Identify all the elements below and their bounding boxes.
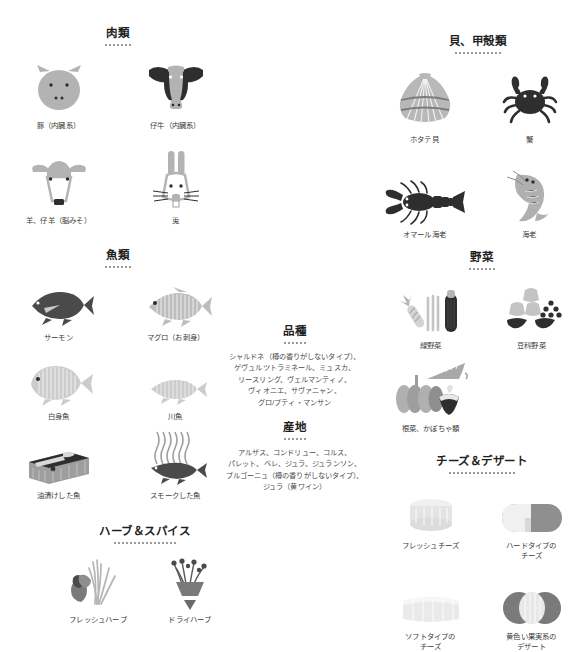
item-label: サーモン (44, 333, 73, 343)
item-legume-vegetables: 豆科野菜 (481, 284, 582, 351)
legume-vegetables-icon (501, 284, 563, 336)
item-dry-herbs: ドライハーブ (144, 558, 236, 625)
item-label: 羊、仔羊（脳みそ） (26, 216, 91, 226)
item-label: 根菜、かぼちゃ類 (402, 424, 460, 434)
item-sheep: 羊、仔羊（脳みそ） (0, 149, 117, 226)
item-root-pumpkin-vegetables: 根菜、かぼちゃ類 (380, 367, 481, 434)
green-vegetables-icon (400, 284, 462, 336)
smoked-fish-icon (143, 438, 209, 486)
section-cheese-dessert: チーズ＆デザート フレッシュチーズ (380, 452, 583, 652)
item-calf: 仔牛（内臓系） (117, 58, 234, 131)
white-fish-icon (23, 359, 95, 407)
pig-head-icon (31, 58, 87, 116)
block-title-varieties: 品種 (207, 322, 382, 338)
item-salmon: サーモン (0, 280, 117, 343)
varieties-list: シャルドネ（樽の香りがしないタイプ）、ゲヴュルツトラミネール、ミュスカ、リースリ… (207, 351, 382, 408)
title-underline-dots-origins (207, 436, 382, 442)
fresh-cheese-icon (402, 488, 460, 536)
item-label: 豆科野菜 (517, 341, 546, 351)
crab-icon (499, 68, 561, 130)
item-label: 海老 (522, 230, 536, 240)
item-crab: 蟹 (477, 68, 582, 145)
section-shellfish: 貝、甲殻類 (372, 32, 583, 240)
item-rabbit: 兎 (117, 149, 234, 226)
item-label: 豚（内臓系） (37, 121, 80, 131)
oil-cured-fish-icon (23, 438, 95, 486)
item-fresh-herbs: フレッシュハーブ (52, 558, 144, 625)
tuna-sashimi-icon (139, 280, 213, 328)
river-fish-icon (143, 359, 209, 407)
item-lobster: オマール海老 (372, 163, 477, 240)
item-label: ドライハーブ (168, 615, 211, 625)
hard-cheese-icon (499, 488, 565, 536)
title-underline-dots-meat (0, 42, 235, 48)
item-shrimp: 海老 (477, 163, 582, 240)
fresh-herbs-icon (67, 558, 129, 610)
section-meat: 肉類 豚（内臓系） (0, 24, 235, 226)
item-yellow-fruit-dessert: 黄色い果実系の デザート (481, 579, 582, 652)
item-scallop: ホタテ貝 (372, 68, 477, 145)
section-herbs-spices: ハーブ＆スパイス フレッシュハーブ (52, 522, 237, 625)
item-label: マグロ（お刺身） (147, 333, 205, 343)
item-label: オマール海老 (403, 230, 446, 240)
lobster-icon (383, 163, 467, 225)
item-label: 川魚 (168, 412, 182, 422)
item-fresh-cheese: フレッシュチーズ (380, 488, 481, 561)
root-pumpkin-vegetables-icon (393, 367, 469, 419)
item-label: フレッシュハーブ (69, 615, 127, 625)
title-underline-dots-fish (0, 264, 235, 270)
item-label: スモークした魚 (150, 491, 200, 501)
item-label: 仔牛（内臓系） (150, 121, 200, 131)
block-title-origins: 産地 (207, 418, 382, 434)
item-white-fish: 白身魚 (0, 359, 117, 422)
section-fish: 魚類 サーモン (0, 246, 235, 501)
title-underline-dots-cheese (380, 470, 583, 476)
item-pig: 豚（内臓系） (0, 58, 117, 131)
yellow-fruit-dessert-icon (499, 579, 565, 627)
item-label: 緑野菜 (420, 341, 442, 351)
title-underline-dots-herbs (52, 540, 237, 546)
soft-cheese-icon (399, 579, 463, 627)
item-label: フレッシュチーズ (402, 541, 460, 551)
sheep-head-icon (29, 149, 89, 211)
section-vegetables: 野菜 (380, 248, 583, 434)
block-varieties: 品種 シャルドネ（樽の香りがしないタイプ）、ゲヴュルツトラミネール、ミュスカ、リ… (207, 322, 382, 408)
section-title-meat: 肉類 (0, 24, 235, 40)
item-label: ソフトタイプの チーズ (405, 632, 455, 652)
item-oil-cured-fish: 油漬けした魚 (0, 438, 117, 501)
item-soft-cheese: ソフトタイプの チーズ (380, 579, 481, 652)
item-label: 油漬けした魚 (37, 491, 80, 501)
title-underline-dots-vegetables (380, 266, 583, 272)
block-origins: 産地 アルザス、コンドリュー、コルス、パレット、ベレ、ジュラ、ジュランソン、ブル… (207, 418, 382, 493)
section-title-herbs-spices: ハーブ＆スパイス (52, 522, 237, 538)
section-title-cheese-dessert: チーズ＆デザート (380, 452, 583, 468)
item-hard-cheese: ハードタイプの チーズ (481, 488, 582, 561)
item-label: 黄色い果実系の デザート (506, 632, 556, 652)
calf-head-icon (147, 58, 205, 116)
item-label: 蟹 (526, 135, 533, 145)
section-title-vegetables: 野菜 (380, 248, 583, 264)
section-title-shellfish: 貝、甲殻類 (372, 32, 583, 48)
origins-list: アルザス、コンドリュー、コルス、パレット、ベレ、ジュラ、ジュランソン、ブルゴーニ… (207, 447, 382, 493)
item-green-vegetables: 緑野菜 (380, 284, 481, 351)
rabbit-head-icon (148, 149, 204, 211)
title-underline-dots-varieties (207, 340, 382, 346)
section-title-fish: 魚類 (0, 246, 235, 262)
salmon-icon (22, 280, 96, 328)
shrimp-icon (503, 163, 557, 225)
item-label: 兎 (172, 216, 179, 226)
dry-herbs-icon (162, 558, 218, 610)
title-underline-dots-shellfish (372, 50, 583, 56)
scallop-icon (395, 68, 455, 130)
item-label: ホタテ貝 (410, 135, 439, 145)
item-label: 白身魚 (48, 412, 70, 422)
item-label: ハードタイプの チーズ (506, 541, 556, 561)
